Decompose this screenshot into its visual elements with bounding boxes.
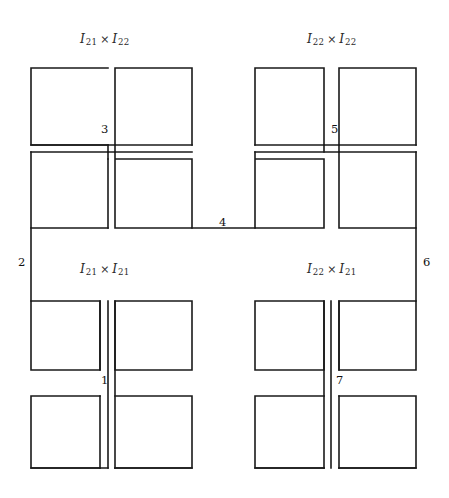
quadrant-label-bl-left-sub: 21: [85, 267, 97, 277]
node-label-1: 1: [101, 375, 108, 387]
square-br-c: [255, 396, 324, 468]
square-br-a: [255, 301, 324, 370]
square-bl-b: [115, 301, 192, 370]
square-tr-a: [255, 68, 324, 145]
square-bl-a: [31, 301, 100, 370]
quadrant-label-top-right: I22×I22: [307, 31, 356, 47]
quadrant-label-br-right-sub: 21: [344, 267, 356, 277]
quadrant-label-bl-right-sub: 21: [117, 267, 129, 277]
quadrant-label-bottom-right: I22×I21: [307, 261, 356, 277]
square-bl-c: [31, 396, 100, 468]
figure-root: I21×I22 I22×I22 I21×I21 I22×I21 1 2 3 4 …: [0, 0, 449, 498]
square-tl-b: [115, 68, 192, 145]
square-bl-d: [115, 396, 192, 468]
square-tr-b: [339, 68, 416, 145]
quadrant-bottom-left: [31, 301, 192, 468]
quadrant-top-right: [255, 68, 416, 228]
quadrant-label-tl-left-sub: 21: [85, 37, 97, 47]
square-tl-a: [31, 68, 108, 145]
square-tl-c: [31, 152, 108, 228]
quadrant-label-tl-operator: ×: [97, 33, 112, 46]
quadrant-label-bottom-left: I21×I21: [80, 261, 129, 277]
node-label-4: 4: [219, 217, 226, 229]
node-label-3: 3: [101, 124, 108, 136]
node-label-5: 5: [331, 124, 338, 136]
quadrant-label-top-left: I21×I22: [80, 31, 129, 47]
quadrant-top-left: [31, 68, 192, 228]
quadrant-label-br-operator: ×: [324, 263, 339, 276]
quadrant-label-bl-operator: ×: [97, 263, 112, 276]
node-label-2: 2: [18, 257, 25, 269]
square-tr-d: [339, 152, 416, 228]
quadrant-label-tl-right-sub: 22: [117, 37, 129, 47]
quadrant-label-tr-operator: ×: [324, 33, 339, 46]
quadrant-label-tr-right-sub: 22: [344, 37, 356, 47]
node-label-7: 7: [336, 375, 343, 387]
quadrant-label-br-left-sub: 22: [312, 267, 324, 277]
square-tr-c: [255, 152, 324, 228]
square-br-d: [339, 396, 416, 468]
square-br-b: [339, 301, 416, 370]
quadrant-label-tr-left-sub: 22: [312, 37, 324, 47]
diagram-canvas: [0, 0, 449, 498]
node-label-6: 6: [423, 257, 430, 269]
square-tl-d: [115, 152, 192, 228]
